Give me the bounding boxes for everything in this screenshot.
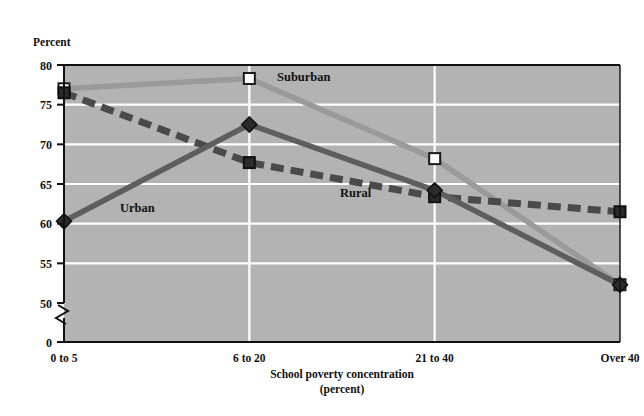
y-tick-label: 60	[40, 217, 52, 231]
y-axis-title: Percent	[33, 36, 71, 48]
x-axis-subtitle: (percent)	[320, 383, 365, 396]
chart-container: 050556065707580 0 to 56 to 2021 to 40Ove…	[0, 0, 644, 416]
series-label-suburban: Suburban	[277, 70, 331, 84]
data-point-marker	[244, 157, 255, 168]
y-tick-label: 55	[40, 257, 52, 271]
x-tick-labels: 0 to 56 to 2021 to 40Over 40	[51, 352, 640, 364]
y-tick-label: 75	[40, 98, 52, 112]
x-tick-label: 6 to 20	[233, 352, 266, 364]
y-tick-label: 50	[40, 297, 52, 311]
series-label-urban: Urban	[120, 201, 155, 215]
line-chart: 050556065707580 0 to 56 to 2021 to 40Ove…	[0, 0, 644, 416]
data-point-marker	[429, 153, 440, 164]
y-tick-labels: 050556065707580	[40, 59, 52, 350]
y-tick-marks	[57, 65, 64, 342]
data-point-marker	[244, 73, 255, 84]
x-tick-label: Over 40	[600, 352, 639, 364]
y-tick-label: 80	[40, 59, 52, 73]
y-tick-label: 70	[40, 138, 52, 152]
y-tick-label: 65	[40, 178, 52, 192]
x-tick-label: 21 to 40	[415, 352, 454, 364]
x-axis-title: School poverty concentration	[270, 368, 414, 381]
series-label-rural: Rural	[340, 186, 372, 200]
x-tick-label: 0 to 5	[51, 352, 78, 364]
y-tick-label: 0	[46, 336, 52, 350]
